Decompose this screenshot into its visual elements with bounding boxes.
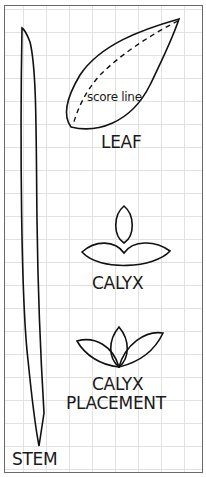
calyx-placement-label-line2: PLACEMENT bbox=[66, 393, 166, 413]
leaf-shape bbox=[67, 19, 179, 129]
calyx-placement-label-line1: CALYX bbox=[92, 374, 143, 394]
stem-shape bbox=[21, 28, 44, 446]
calyx-label: CALYX bbox=[92, 273, 143, 293]
calyx-base bbox=[82, 243, 170, 265]
calyx-petal bbox=[116, 206, 133, 243]
score-line-label: score line bbox=[87, 90, 142, 104]
placement-petal-left bbox=[77, 340, 119, 367]
leaf-score-line bbox=[73, 21, 178, 125]
stem-label: STEM bbox=[12, 449, 57, 469]
placement-petal-center bbox=[111, 327, 128, 367]
leaf-label: LEAF bbox=[101, 132, 141, 152]
